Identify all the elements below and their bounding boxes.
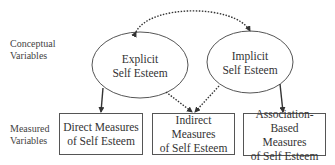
node-line: of Self Esteem: [63, 134, 139, 148]
association-based-measures-box: Association-Based Measures of Self Estee…: [243, 113, 326, 156]
node-line: Direct Measures: [63, 120, 139, 134]
node-line: Self Esteem: [95, 66, 185, 80]
node-line: of Self Esteem: [244, 149, 325, 163]
node-line: Indirect Measures: [153, 113, 234, 141]
arrow-implicit-indirect: [195, 86, 219, 112]
indirect-measures-box: Indirect Measures of Self Esteem: [152, 113, 235, 155]
conceptual-variables-label: Conceptual Variables: [10, 38, 56, 62]
implicit-self-esteem-node: Implicit Self Esteem: [207, 49, 293, 77]
node-line: Measures: [244, 135, 325, 149]
node-line: Association-Based: [244, 107, 325, 135]
measured-variables-label: Measured Variables: [10, 123, 49, 147]
label-line: Conceptual: [10, 38, 56, 50]
label-line: Variables: [10, 50, 56, 62]
label-line: Measured: [10, 123, 49, 135]
node-line: Explicit: [95, 52, 185, 66]
arrow-explicit-indirect: [166, 92, 192, 112]
correlation-curve: [136, 11, 250, 32]
arrow-explicit-direct: [101, 88, 103, 112]
node-line: of Self Esteem: [153, 141, 234, 155]
label-line: Variables: [10, 135, 49, 147]
direct-measures-box: Direct Measures of Self Esteem: [59, 113, 143, 155]
explicit-self-esteem-node: Explicit Self Esteem: [95, 52, 185, 80]
node-line: Implicit: [207, 49, 293, 63]
node-line: Self Esteem: [207, 63, 293, 77]
